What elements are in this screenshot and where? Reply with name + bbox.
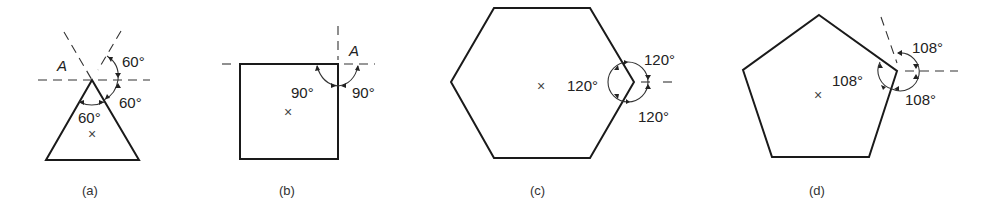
right-extension-line	[98, 31, 121, 70]
center-mark: ×	[88, 126, 96, 142]
angle-label-exterior: 90°	[352, 84, 375, 101]
caption-d: (d)	[809, 183, 825, 198]
arrowhead	[897, 50, 902, 56]
center-mark: ×	[537, 78, 545, 94]
angle-label-upper: 120°	[644, 51, 675, 68]
pentagon-shape	[743, 15, 897, 157]
interior-angle-arc	[317, 66, 338, 86]
extension-line	[881, 17, 897, 63]
caption-b: (b)	[279, 183, 295, 198]
angle-label-interior: 108°	[832, 72, 863, 89]
caption-c: (c)	[530, 183, 545, 198]
arrowhead	[315, 65, 320, 71]
arrowhead	[355, 65, 360, 71]
arrowhead	[115, 83, 121, 88]
angle-label-lower: 120°	[638, 108, 669, 125]
exterior-angle-arc-upper	[107, 56, 118, 80]
figure-c-hexagon: 120° 120° 120° × (c)	[451, 8, 675, 198]
arrowhead	[115, 73, 121, 78]
angle-label-lower: 108°	[905, 91, 936, 108]
caption-a: (a)	[82, 183, 98, 198]
angle-label-interior: 60°	[78, 109, 101, 126]
arrowhead	[645, 84, 651, 89]
figure-b-square: A 90° 90° × (b)	[222, 26, 375, 198]
exterior-angle-arc	[338, 66, 358, 86]
angle-label-exterior-lower: 60°	[119, 94, 142, 111]
point-label-a: A	[348, 42, 359, 59]
center-mark: ×	[284, 104, 292, 120]
figure-a-triangle: A 60° 60° 60° × (a)	[38, 31, 150, 198]
figure-d-pentagon: 108° 108° 108° × (d)	[743, 15, 958, 198]
angle-label-interior: 120°	[567, 77, 598, 94]
angle-label-exterior-upper: 60°	[122, 53, 145, 70]
center-mark: ×	[814, 87, 822, 103]
left-extension-line	[64, 32, 92, 80]
arrowhead	[645, 75, 651, 80]
angle-label-interior: 90°	[291, 84, 314, 101]
angle-label-upper: 108°	[912, 39, 943, 56]
point-label-a: A	[56, 57, 67, 74]
polygon-angle-diagrams: A 60° 60° 60° × (a) A 90° 90° × (b)	[0, 0, 984, 208]
